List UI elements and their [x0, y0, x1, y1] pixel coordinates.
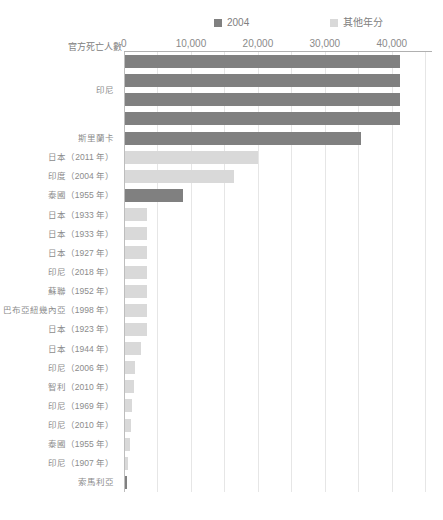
bar-row: [125, 457, 433, 470]
category-label: 蘇聯（1952 年）: [0, 286, 114, 296]
x-tick-label: 30,000: [310, 38, 341, 49]
bar: [125, 380, 134, 393]
bar: [125, 55, 400, 68]
x-tick-label: 20,000: [243, 38, 274, 49]
category-label: 日本（2011 年）: [0, 152, 114, 162]
category-label: 泰國（1955 年）: [0, 439, 114, 449]
bar: [125, 361, 135, 374]
x-tick-label: 10,000: [176, 38, 207, 49]
category-label: 印尼（2006 年）: [0, 363, 114, 373]
legend-swatch-other-years: [330, 19, 338, 27]
category-labels: 印尼斯里蘭卡日本（2011 年）印度（2004 年）泰國（1955 年）日本（1…: [0, 52, 118, 492]
legend-swatch-2004: [214, 19, 222, 27]
bar: [125, 476, 127, 489]
bar: [125, 266, 147, 279]
bar: [125, 457, 128, 470]
bar-chart: 2004 其他年分 官方死亡人數 010,00020,00030,00040,0…: [0, 0, 443, 520]
bar-row: [125, 266, 433, 279]
plot-area: [124, 52, 432, 492]
legend-item-other-years: 其他年分: [330, 18, 383, 28]
bar-row: [125, 438, 433, 451]
category-label: 印尼（2010 年）: [0, 420, 114, 430]
bar-row: [125, 304, 433, 317]
bar-row: [125, 132, 433, 145]
category-label: 智利（2010 年）: [0, 382, 114, 392]
bar-row: [125, 208, 433, 221]
bar-row: [125, 342, 433, 355]
x-tick-label: 40,000: [377, 38, 408, 49]
bar-row: [125, 227, 433, 240]
x-axis-ticks: 010,00020,00030,00040,000: [0, 38, 443, 52]
category-label: 印尼（2018 年）: [0, 267, 114, 277]
category-label: 印度（2004 年）: [0, 171, 114, 181]
bar-row: [125, 419, 433, 432]
bar-row: [125, 55, 433, 68]
bar: [125, 151, 258, 164]
bar-rows: [124, 52, 432, 492]
bar: [125, 399, 132, 412]
bar-row: [125, 323, 433, 336]
bar: [125, 74, 400, 87]
bar-row: [125, 246, 433, 259]
bar-row: [125, 189, 433, 202]
bar: [125, 189, 183, 202]
bar: [125, 132, 361, 145]
category-label: 印尼: [0, 85, 114, 95]
bar: [125, 304, 147, 317]
category-label: 索馬利亞: [0, 477, 114, 487]
category-label: 斯里蘭卡: [0, 133, 114, 143]
category-label: 日本（1927 年）: [0, 248, 114, 258]
legend-label-other-years: 其他年分: [343, 18, 383, 28]
bar: [125, 170, 234, 183]
category-label: 印尼（1907 年）: [0, 458, 114, 468]
category-label: 日本（1923 年）: [0, 324, 114, 334]
bar: [125, 419, 131, 432]
category-label: 日本（1933 年）: [0, 210, 114, 220]
legend-item-2004: 2004: [214, 18, 249, 28]
bar-row: [125, 399, 433, 412]
category-label: 日本（1933 年）: [0, 229, 114, 239]
category-label: 泰國（1955 年）: [0, 190, 114, 200]
bar-row: [125, 112, 433, 125]
bar-row: [125, 93, 433, 106]
bar: [125, 227, 147, 240]
category-label: 印尼（1969 年）: [0, 401, 114, 411]
bar-row: [125, 170, 433, 183]
x-tick-label: 0: [121, 38, 127, 49]
bar: [125, 323, 147, 336]
legend-label-2004: 2004: [227, 18, 249, 28]
category-label: 日本（1944 年）: [0, 344, 114, 354]
bar: [125, 246, 147, 259]
bar: [125, 112, 400, 125]
bar: [125, 93, 400, 106]
chart-legend: 2004 其他年分: [0, 18, 443, 32]
bar-row: [125, 361, 433, 374]
bar: [125, 342, 141, 355]
bar: [125, 438, 130, 451]
bar-row: [125, 380, 433, 393]
bar-row: [125, 151, 433, 164]
bar-row: [125, 476, 433, 489]
bar-row: [125, 74, 433, 87]
bar: [125, 285, 147, 298]
bar-row: [125, 285, 433, 298]
category-label: 巴布亞紐幾內亞（1998 年）: [0, 305, 114, 315]
bar: [125, 208, 147, 221]
